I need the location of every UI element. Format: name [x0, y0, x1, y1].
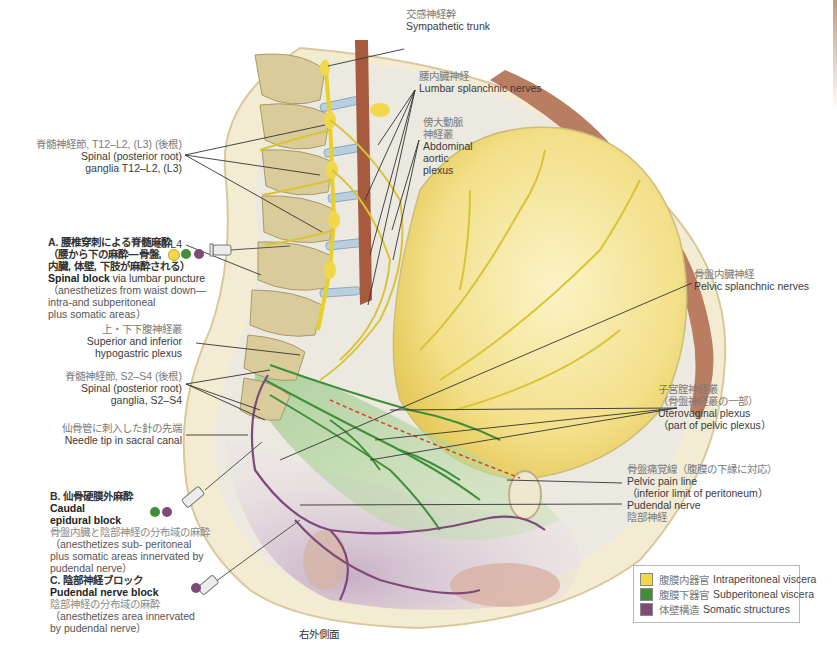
indicator-dot-somatic	[162, 507, 172, 517]
indicator-dot-somatic	[194, 249, 204, 259]
label-en: （inferior limit of peritoneum）	[627, 487, 777, 499]
label-pelvic-pain-line: 骨盤痛覚線（腹膜の下縁に対応） Pelvic pain line （inferi…	[627, 463, 777, 499]
legend-item-intraperitoneal: 腹膜内器官 Intraperitoneal viscera	[640, 572, 816, 586]
block-title-jp: A. 腰椎穿刺による脊髄麻酔	[48, 236, 206, 248]
label-jp: 子宮腟神経叢	[658, 383, 771, 395]
label-jp: 交感神経幹	[406, 8, 490, 20]
label-en: Uterovaginal plexus	[658, 407, 771, 419]
block-desc: （anesthetizes from waist down—	[48, 284, 206, 296]
block-desc: plus somatic areas）	[48, 308, 206, 320]
label-jp: 仙骨管に刺入した針の先端	[62, 422, 182, 434]
label-needle-tip: 仙骨管に刺入した針の先端 Needle tip in sacral canal	[62, 422, 182, 446]
block-title-jp: B. 仙骨硬膜外麻酔	[50, 490, 210, 502]
legend-item-subperitoneal: 腹膜下器官 Subperitoneal viscera	[640, 587, 814, 601]
label-jp: 脊髄神経節, T12–L2, (L3) (後根)	[36, 138, 182, 150]
anatomy-figure: 交感神経幹 Sympathetic trunk 腰内臓神経 Lumbar spl…	[0, 0, 837, 672]
label-en: Superior and inferior	[87, 335, 182, 347]
block-desc: （anesthetizes area innervated	[50, 610, 195, 622]
legend-swatch	[640, 573, 653, 586]
legend-swatch	[640, 603, 653, 616]
block-desc-jp: 骨盤内臓と陰部神経の分布域の麻酔	[50, 526, 210, 538]
label-en: Sympathetic trunk	[406, 20, 490, 32]
label-abdominal-aortic-plexus: 傍大動脈 神経叢 Abdominal aortic plexus	[423, 116, 473, 176]
block-desc: intra-and subperitoneal	[48, 296, 206, 308]
label-pelvic-splanchnic: 骨盤内臓神経 Pelvic splanchnic nerves	[694, 268, 809, 292]
label-lumbar-splanchnic: 腰内臓神経 Lumbar splanchnic nerves	[419, 70, 542, 94]
label-jp: 上・下下腹神経叢	[87, 323, 182, 335]
block-a-spinal: A. 腰椎穿刺による脊髄麻酔 （腰から下の麻酔—骨盤, 内臓, 体壁, 下肢が麻…	[48, 236, 206, 320]
label-jp: 脊髄神経節, S2–S4 (後根)	[65, 370, 182, 382]
label-en: Pudendal nerve	[627, 499, 701, 511]
uterus	[393, 127, 686, 480]
label-en: aortic	[423, 152, 473, 164]
legend-jp: 体壁構造	[659, 602, 699, 617]
block-desc: by pudendal nerve）	[50, 622, 195, 634]
label-jp: 神経叢	[423, 128, 473, 140]
indicator-dot-subperitoneal	[150, 507, 160, 517]
label-jp: 傍大動脈	[423, 116, 473, 128]
label-en: hypogastric plexus	[87, 347, 182, 359]
label-jp: 陰部神経	[627, 511, 701, 523]
label-jp: 骨盤痛覚線（腹膜の下縁に対応）	[627, 463, 777, 475]
label-en: ganglia, S2–S4	[65, 394, 182, 406]
block-title-jp: C. 陰部神経ブロック	[50, 574, 195, 586]
block-desc: （anesthetizes sub- peritoneal	[50, 538, 210, 550]
label-en: Spinal (posterior root)	[36, 150, 182, 162]
legend-jp: 腹膜内器官	[659, 572, 709, 587]
block-title-en: epidural block	[50, 514, 210, 526]
label-jp: （骨盤神経叢の一部）	[658, 395, 771, 407]
block-b-caudal: B. 仙骨硬膜外麻酔 Caudal epidural block 骨盤内臓と陰部…	[50, 490, 210, 574]
indicator-dot-somatic	[191, 583, 201, 593]
block-title-jp: 内臓, 体壁, 下肢が麻酔される）	[48, 260, 206, 272]
legend-swatch	[640, 588, 653, 601]
label-en: Pelvic splanchnic nerves	[694, 280, 809, 292]
label-en: ganglia T12–L2, (L3)	[36, 162, 182, 174]
block-title-en: Pudendal nerve block	[50, 586, 195, 598]
block-desc-jp: 陰部神経の分布域の麻酔	[50, 598, 195, 610]
indicator-dot-subperitoneal	[181, 249, 191, 259]
indicator-dot-intraperitoneal	[168, 249, 180, 261]
legend-en: Intraperitoneal viscera	[713, 573, 816, 585]
label-uterovaginal-plexus: 子宮腟神経叢 （骨盤神経叢の一部） Uterovaginal plexus （p…	[658, 383, 771, 431]
legend-jp: 腹膜下器官	[659, 587, 709, 602]
legend-item-somatic: 体壁構造 Somatic structures	[640, 602, 790, 616]
block-title-en: Caudal	[50, 502, 210, 514]
legend-en: Subperitoneal viscera	[713, 588, 814, 600]
label-en: plexus	[423, 164, 473, 176]
label-en: （part of pelvic plexus）	[658, 419, 771, 431]
label-en: Lumbar splanchnic nerves	[419, 82, 542, 94]
block-desc: pudendal nerve）	[50, 562, 210, 574]
label-spinal-ganglia-t12: 脊髄神経節, T12–L2, (L3) (後根) Spinal (posteri…	[36, 138, 182, 174]
legend-en: Somatic structures	[703, 603, 790, 615]
label-sympathetic-trunk: 交感神経幹 Sympathetic trunk	[406, 8, 490, 32]
label-en: Abdominal	[423, 140, 473, 152]
label-en: Needle tip in sacral canal	[62, 434, 182, 446]
block-c-pudendal: C. 陰部神経ブロック Pudendal nerve block 陰部神経の分布…	[50, 574, 195, 634]
label-jp: 骨盤内臓神経	[694, 268, 809, 280]
page-edge-tab	[833, 0, 837, 110]
label-en: Spinal (posterior root)	[65, 382, 182, 394]
label-hypogastric-plexus: 上・下下腹神経叢 Superior and inferior hypogastr…	[87, 323, 182, 359]
figure-caption: 右外側面	[299, 626, 339, 641]
block-desc: plus somatic areas innervated by	[50, 550, 210, 562]
label-pudendal-nerve: Pudendal nerve 陰部神経	[627, 499, 701, 523]
label-jp: 腰内臓神経	[419, 70, 542, 82]
legend: 腹膜内器官 Intraperitoneal viscera 腹膜下器官 Subp…	[633, 565, 800, 623]
label-en: Pelvic pain line	[627, 475, 777, 487]
label-spinal-ganglia-s2: 脊髄神経節, S2–S4 (後根) Spinal (posterior root…	[65, 370, 182, 406]
block-title-en: Spinal block via lumbar puncture	[48, 272, 205, 284]
